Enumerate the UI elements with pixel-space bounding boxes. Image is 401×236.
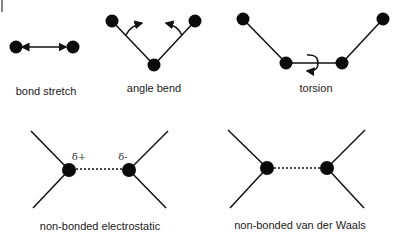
atom bbox=[189, 15, 202, 28]
label-torsion: torsion bbox=[299, 82, 332, 94]
atom bbox=[67, 41, 80, 54]
vdw-figure bbox=[228, 130, 365, 208]
atom bbox=[336, 57, 349, 70]
partial-charge-positive: δ+ bbox=[72, 151, 86, 162]
atom bbox=[10, 41, 23, 54]
electrostatic-figure bbox=[31, 131, 168, 208]
label-angle-bend: angle bend bbox=[127, 82, 181, 94]
label-bond-stretch: bond stretch bbox=[16, 85, 77, 97]
bond-stretch-figure bbox=[10, 41, 80, 54]
force-field-terms-diagram: bond stretch angle bend torsion non-bond… bbox=[0, 0, 401, 236]
atom bbox=[148, 59, 161, 72]
label-electrostatic: non-bonded electrostatic bbox=[40, 220, 160, 232]
atom bbox=[106, 15, 119, 28]
label-vdw: non-bonded van der Waals bbox=[234, 219, 366, 231]
atom bbox=[260, 161, 274, 175]
torsion-figure bbox=[237, 13, 390, 72]
bend-arrow-icon bbox=[166, 23, 182, 35]
atom bbox=[122, 163, 136, 177]
angle-bend-figure bbox=[106, 15, 202, 72]
bend-arrow-icon bbox=[126, 23, 142, 35]
atom bbox=[280, 57, 293, 70]
partial-charge-negative: δ- bbox=[118, 151, 127, 162]
atom bbox=[237, 13, 250, 26]
atom bbox=[377, 13, 390, 26]
atom bbox=[62, 163, 76, 177]
atom bbox=[320, 161, 334, 175]
